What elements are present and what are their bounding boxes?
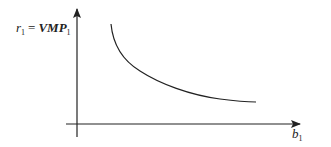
y-label-equals: = [28, 20, 35, 35]
x-label-sub: 1 [299, 134, 303, 143]
y-label-lhs-sub: 1 [21, 28, 25, 37]
y-label-rhs-sub: 1 [67, 28, 71, 37]
y-axis-label: r1=VMP1 [16, 21, 71, 34]
y-label-rhs: VMP [38, 20, 66, 35]
x-axis-label: b1 [292, 127, 303, 140]
vmp-curve [111, 24, 256, 102]
x-label-var: b [292, 126, 299, 141]
